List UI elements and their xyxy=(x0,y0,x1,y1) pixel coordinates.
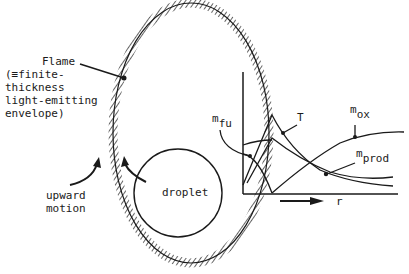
m-fu-sub: fu xyxy=(219,117,232,130)
flame-desc-3: light-emitting xyxy=(5,95,98,107)
m-ox-label: mox xyxy=(350,104,370,116)
upward-arrow-outer xyxy=(70,157,101,185)
flame-desc-4: envelope) xyxy=(5,108,65,120)
r-axis-arrow xyxy=(280,197,324,205)
diagram-canvas xyxy=(0,0,409,274)
T-leader xyxy=(283,125,297,133)
r-axis-label: r xyxy=(336,196,343,208)
m-prod-base: m xyxy=(356,147,363,160)
flame-label: Flame xyxy=(42,56,75,68)
m-ox-sub: ox xyxy=(357,108,370,121)
m-fu-leader xyxy=(220,130,250,156)
flame-envelope xyxy=(113,3,269,263)
T-label: T xyxy=(297,112,304,124)
m-prod-leader xyxy=(327,163,355,174)
m-fu-base: m xyxy=(212,112,219,125)
upward-motion-label-1: upward xyxy=(46,190,86,202)
m-ox-base: m xyxy=(350,103,357,116)
m-fu-label: mfu xyxy=(212,113,232,125)
m-prod-sub: prod xyxy=(363,152,390,165)
upward-arrow-inner xyxy=(121,156,146,182)
upward-motion-label-2: motion xyxy=(46,203,86,215)
m-prod-label: mprod xyxy=(356,148,389,160)
droplet-label: droplet xyxy=(162,187,208,199)
flame-leader xyxy=(80,64,124,78)
flame-desc-1: (≡finite- xyxy=(5,69,65,81)
flame-desc-2: thickness xyxy=(5,82,65,94)
